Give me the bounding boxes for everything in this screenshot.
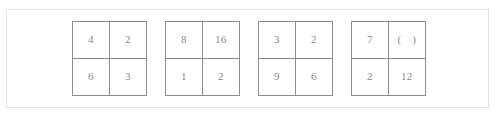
grid-2-cell-bottom-right: 2 [203, 59, 240, 96]
number-grid-3: 3 2 9 6 [258, 21, 333, 96]
grid-4-cell-top-left: 7 [352, 22, 389, 59]
grid-4-cell-bottom-right: 12 [389, 59, 426, 96]
grid-2-cell-bottom-left: 1 [166, 59, 203, 96]
number-grid-2: 8 16 1 2 [165, 21, 240, 96]
grid-3-cell-top-right: 2 [296, 22, 333, 59]
grid-1-cell-bottom-right: 3 [110, 59, 147, 96]
grid-1-cell-top-left: 4 [73, 22, 110, 59]
grid-4-answer-blank[interactable]: ( ) [389, 22, 426, 59]
grid-4-cell-bottom-left: 2 [352, 59, 389, 96]
grid-3-cell-top-left: 3 [259, 22, 296, 59]
grid-2-cell-top-left: 8 [166, 22, 203, 59]
grid-1-cell-bottom-left: 6 [73, 59, 110, 96]
question-panel: 4 2 6 3 8 16 1 2 3 2 9 6 7 ( ) 2 12 [6, 9, 489, 108]
number-grid-row: 4 2 6 3 8 16 1 2 3 2 9 6 7 ( ) 2 12 [7, 10, 488, 107]
number-grid-1: 4 2 6 3 [72, 21, 147, 96]
grid-2-cell-top-right: 16 [203, 22, 240, 59]
grid-1-cell-top-right: 2 [110, 22, 147, 59]
number-grid-4: 7 ( ) 2 12 [351, 21, 426, 96]
grid-3-cell-bottom-right: 6 [296, 59, 333, 96]
grid-3-cell-bottom-left: 9 [259, 59, 296, 96]
